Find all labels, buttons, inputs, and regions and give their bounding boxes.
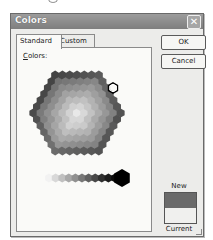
- tab-standard[interactable]: Standard: [16, 34, 62, 49]
- gray-cell[interactable]: [98, 174, 106, 183]
- gray-cell[interactable]: [91, 174, 99, 183]
- gray-cell[interactable]: [85, 174, 93, 183]
- gray-cell[interactable]: [52, 174, 60, 183]
- gray-cell[interactable]: [72, 174, 80, 183]
- gray-cell[interactable]: [78, 174, 86, 183]
- black-cell[interactable]: [114, 169, 130, 187]
- gray-cell[interactable]: [65, 174, 73, 183]
- gray-cell[interactable]: [58, 174, 66, 183]
- gray-cell[interactable]: [45, 174, 53, 183]
- gray-cell[interactable]: [105, 174, 113, 183]
